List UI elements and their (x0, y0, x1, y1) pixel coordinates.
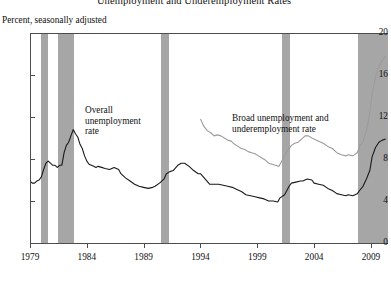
x-tick-mark-1999 (257, 244, 258, 248)
y-tick-label-20: 20 (364, 28, 388, 37)
y-tick-mark-4 (31, 201, 35, 202)
y-tick-mark-8 (31, 159, 35, 160)
x-tick-label-1989: 1989 (124, 252, 164, 262)
broad-unemployment-annotation: Broad unemployment and underemployment r… (232, 113, 329, 134)
plot-area (30, 33, 388, 243)
y-axis-unit-label: Percent, seasonally adjusted (2, 15, 107, 25)
y-tick-label-16: 16 (364, 70, 388, 79)
series-layer (30, 33, 388, 243)
x-tick-mark-1994 (200, 244, 201, 248)
y-tick-label-8: 8 (364, 154, 388, 163)
x-axis-line (30, 243, 388, 244)
overall-unemployment-annotation: Overall unemployment rate (85, 105, 141, 137)
plot-frame-top (30, 33, 388, 34)
y-tick-label-0: 0 (364, 238, 388, 247)
annot-broad-line2: underemployment rate (232, 124, 329, 135)
x-tick-label-2009: 2009 (351, 252, 391, 262)
x-tick-mark-1989 (144, 244, 145, 248)
x-tick-label-1994: 1994 (180, 252, 220, 262)
y-tick-mark-16 (31, 75, 35, 76)
line-broad-unemployment-and-underemployment-rate (200, 56, 385, 166)
y-tick-mark-12 (31, 117, 35, 118)
x-tick-mark-2004 (314, 244, 315, 248)
annot-overall-line3: rate (85, 126, 141, 137)
x-tick-label-1999: 1999 (237, 252, 277, 262)
y-axis-line (30, 33, 31, 244)
annot-overall-line1: Overall (85, 105, 141, 116)
y-tick-label-12: 12 (364, 112, 388, 121)
line-overall-unemployment-rate (30, 130, 386, 202)
x-tick-label-2004: 2004 (294, 252, 334, 262)
annot-broad-line1: Broad unemployment and (232, 113, 329, 124)
annot-overall-line2: unemployment (85, 116, 141, 127)
x-tick-mark-1984 (87, 244, 88, 248)
x-tick-mark-2009 (371, 244, 372, 248)
x-tick-mark-1979 (30, 244, 31, 248)
y-tick-label-4: 4 (364, 196, 388, 205)
chart-title: Unemployment and Underemployment Rates (0, 0, 388, 6)
x-tick-label-1984: 1984 (67, 252, 107, 262)
x-tick-label-1979: 1979 (10, 252, 50, 262)
